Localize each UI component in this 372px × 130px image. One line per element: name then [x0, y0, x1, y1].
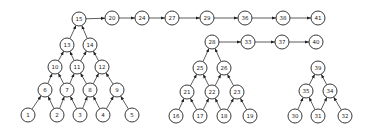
- node-label: 38: [280, 15, 287, 21]
- node-label: 34: [327, 88, 334, 94]
- node-label: 21: [184, 89, 191, 95]
- edge-14-to-15: [82, 25, 88, 38]
- node-label: 37: [279, 39, 286, 45]
- edge-23-to-26: [227, 74, 233, 86]
- edge-32-to-34: [334, 97, 342, 110]
- node-label: 30: [292, 113, 299, 119]
- node-38: 38: [276, 11, 290, 25]
- node-label: 31: [315, 113, 322, 119]
- node-36: 36: [238, 11, 252, 25]
- node-label: 14: [87, 42, 94, 48]
- edge-11-to-13: [70, 51, 74, 60]
- edge-2-to-7: [60, 96, 65, 108]
- edge-22-to-26: [215, 74, 221, 85]
- node-32: 32: [338, 109, 352, 123]
- node-26: 26: [217, 61, 231, 75]
- edge-15-to-20: [86, 18, 105, 19]
- node-29: 29: [200, 11, 214, 25]
- node-39: 39: [311, 61, 325, 75]
- nodes-layer: 1234567891011121314152024272936384116171…: [21, 11, 352, 123]
- node-33: 33: [241, 35, 255, 49]
- node-label: 18: [221, 113, 228, 119]
- node-2: 2: [50, 108, 64, 122]
- node-30: 30: [288, 109, 302, 123]
- node-label: 11: [74, 64, 81, 70]
- edge-30-to-35: [298, 97, 303, 109]
- node-label: 10: [52, 64, 59, 70]
- edge-31-to-35: [309, 97, 315, 109]
- node-11: 11: [70, 60, 84, 74]
- node-4: 4: [96, 108, 110, 122]
- node-label: 2: [55, 112, 59, 118]
- edge-3-to-7: [70, 96, 77, 109]
- edge-35-to-39: [309, 74, 315, 85]
- edge-17-to-22: [203, 98, 209, 109]
- node-label: 35: [303, 88, 310, 94]
- edge-4-to-9: [106, 96, 113, 109]
- node-label: 41: [315, 15, 322, 21]
- node-label: 3: [78, 112, 82, 118]
- node-label: 40: [313, 39, 320, 45]
- node-40: 40: [309, 35, 323, 49]
- edge-17-to-21: [190, 98, 196, 110]
- node-6: 6: [38, 83, 52, 97]
- node-label: 29: [204, 15, 211, 21]
- node-label: 23: [234, 89, 241, 95]
- node-label: 5: [130, 112, 134, 118]
- graph-diagram: 1234567891011121314152024272936384116171…: [0, 0, 372, 130]
- edge-7-to-10: [58, 73, 64, 84]
- node-label: 26: [221, 65, 228, 71]
- node-label: 1: [26, 112, 30, 118]
- node-label: 4: [101, 112, 105, 118]
- node-label: 36: [242, 15, 249, 21]
- node-18: 18: [217, 109, 231, 123]
- node-15: 15: [72, 12, 86, 26]
- node-label: 33: [245, 39, 252, 45]
- node-label: 32: [342, 113, 349, 119]
- node-label: 20: [109, 15, 116, 21]
- node-label: 17: [197, 113, 204, 119]
- node-label: 39: [315, 65, 322, 71]
- node-3: 3: [73, 108, 87, 122]
- node-20: 20: [105, 11, 119, 25]
- edge-8-to-12: [93, 73, 99, 84]
- node-22: 22: [205, 85, 219, 99]
- edge-3-to-8: [83, 96, 88, 108]
- node-label: 8: [88, 87, 92, 93]
- edge-18-to-23: [227, 98, 233, 110]
- edge-1-to-6: [32, 96, 41, 109]
- node-41: 41: [311, 11, 325, 25]
- edge-26-to-28: [215, 48, 221, 61]
- node-31: 31: [311, 109, 325, 123]
- node-9: 9: [110, 83, 124, 97]
- node-label: 7: [65, 87, 69, 93]
- node-label: 27: [169, 15, 176, 21]
- node-17: 17: [193, 109, 207, 123]
- edge-12-to-14: [93, 51, 98, 61]
- node-7: 7: [60, 83, 74, 97]
- node-5: 5: [125, 108, 139, 122]
- node-label: 22: [209, 89, 216, 95]
- edge-5-to-9: [121, 96, 129, 109]
- node-1: 1: [21, 108, 35, 122]
- edge-4-to-8: [93, 96, 100, 109]
- node-label: 9: [115, 87, 119, 93]
- edge-31-to-34: [321, 97, 327, 109]
- edge-7-to-11: [70, 73, 74, 83]
- node-27: 27: [165, 11, 179, 25]
- node-13: 13: [60, 38, 74, 52]
- node-28: 28: [205, 35, 219, 49]
- edge-6-to-10: [48, 73, 52, 83]
- node-label: 28: [209, 39, 216, 45]
- node-25: 25: [193, 61, 207, 75]
- edge-10-to-13: [58, 51, 63, 61]
- node-24: 24: [135, 11, 149, 25]
- edge-8-to-11: [80, 73, 86, 84]
- node-label: 16: [173, 113, 180, 119]
- node-label: 6: [43, 87, 47, 93]
- edge-25-to-28: [203, 48, 209, 61]
- node-34: 34: [323, 84, 337, 98]
- node-19: 19: [243, 109, 257, 123]
- node-label: 13: [64, 42, 71, 48]
- node-14: 14: [83, 38, 97, 52]
